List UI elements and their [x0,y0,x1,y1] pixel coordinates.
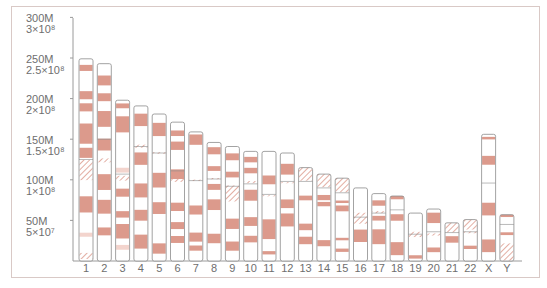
x-label-16: 16 [354,262,366,274]
x-label-10: 10 [245,262,257,274]
chromosome-8 [207,142,221,261]
chromosome-14 [317,174,331,261]
x-label-18: 18 [391,262,403,274]
chromosome-18 [390,196,404,261]
chromosome-4 [134,106,148,261]
x-label-13: 13 [299,262,311,274]
chromosome-20 [427,209,441,261]
chromosome-Y [500,215,514,261]
x-label-20: 20 [428,262,440,274]
chromosome-11 [262,151,276,261]
x-label-Y: Y [503,262,511,274]
x-label-14: 14 [318,262,330,274]
chromosome-13 [299,168,313,261]
x-label-6: 6 [174,262,180,274]
x-label-15: 15 [336,262,348,274]
x-label-1: 1 [83,262,89,274]
chromosome-5 [152,114,166,261]
x-label-8: 8 [211,262,217,274]
x-label-4: 4 [138,262,144,274]
chromosome-bars [79,59,514,261]
chromosome-3 [116,100,130,261]
chromosome-2 [97,64,111,261]
chromosome-7 [189,132,203,261]
chromosome-21 [445,223,459,261]
x-label-5: 5 [156,262,162,274]
x-axis-labels: 12345678910111213141516171819202122XY [83,262,511,274]
chromosome-17 [372,194,386,261]
x-label-2: 2 [101,262,107,274]
x-label-22: 22 [464,262,476,274]
x-label-X: X [485,262,493,274]
chromosome-6 [171,122,185,261]
x-label-21: 21 [446,262,458,274]
chromosome-X [482,134,496,261]
chromosome-16 [354,188,368,261]
chromosome-19 [408,213,422,261]
chromosome-10 [244,151,258,261]
x-label-9: 9 [229,262,235,274]
chromosome-9 [225,147,239,261]
chromosome-chart: 12345678910111213141516171819202122XY [0,0,547,288]
chromosome-1 [79,59,93,261]
x-label-3: 3 [120,262,126,274]
x-label-11: 11 [263,262,274,274]
chromosome-12 [280,153,294,261]
chromosome-22 [463,220,477,261]
x-label-17: 17 [373,262,385,274]
x-label-12: 12 [281,262,293,274]
x-label-19: 19 [409,262,421,274]
x-label-7: 7 [193,262,199,274]
chromosome-15 [335,178,349,261]
